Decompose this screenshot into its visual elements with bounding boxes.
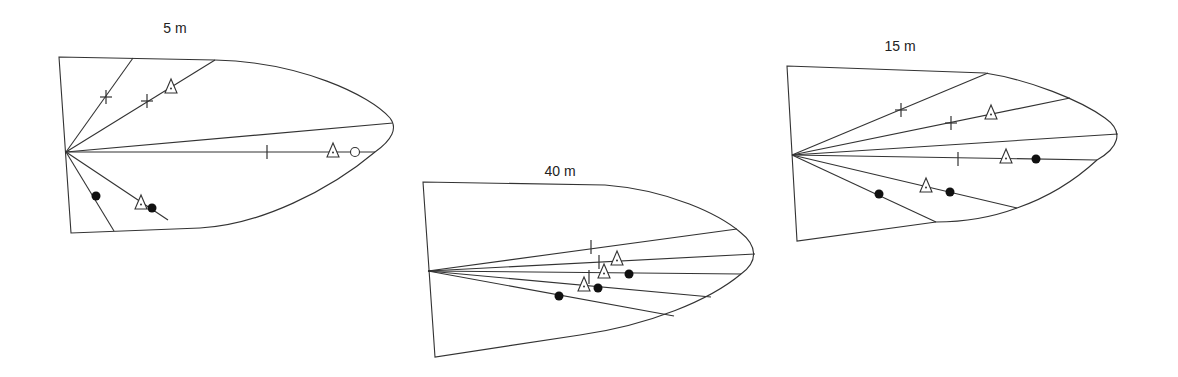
filled-dot-marker-icon xyxy=(1032,155,1041,164)
plus-marker-icon xyxy=(895,103,907,117)
panel-5m: 5 m xyxy=(59,20,394,233)
triangle-marker-icon xyxy=(598,264,610,278)
ray-line xyxy=(792,155,1097,160)
ray-line xyxy=(66,58,133,152)
ray-line xyxy=(792,73,988,155)
panel-15m: 15 m xyxy=(787,38,1118,241)
triangle-marker-icon xyxy=(135,195,147,209)
triangle-marker-icon xyxy=(578,277,590,291)
diagram-canvas: 5 m 40 m 15 m xyxy=(0,0,1178,377)
plus-marker-icon xyxy=(141,94,153,108)
panel-title: 5 m xyxy=(163,20,186,36)
ray-line xyxy=(428,271,674,316)
triangle-marker-icon xyxy=(985,105,997,119)
ray-group xyxy=(792,73,1118,222)
ray-line xyxy=(428,229,737,271)
filled-dot-marker-icon xyxy=(875,190,884,199)
filled-dot-marker-icon xyxy=(555,292,564,301)
panel-outline xyxy=(423,182,754,357)
filled-dot-marker-icon xyxy=(594,284,603,293)
panel-outline xyxy=(787,66,1117,241)
ray-line xyxy=(428,254,755,271)
marker-group xyxy=(875,103,1041,199)
filled-dot-marker-icon xyxy=(625,270,634,279)
triangle-marker-icon xyxy=(327,143,339,157)
ray-line xyxy=(428,271,711,297)
filled-dot-marker-icon xyxy=(148,204,157,213)
ray-line xyxy=(66,60,215,152)
ray-group xyxy=(66,58,393,231)
open-circle-marker-icon xyxy=(351,148,360,157)
triangle-marker-icon xyxy=(920,178,932,192)
marker-group xyxy=(555,240,634,301)
plus-marker-icon xyxy=(945,116,957,130)
filled-dot-marker-icon xyxy=(946,188,955,197)
ray-line xyxy=(792,155,1017,208)
triangle-marker-icon xyxy=(165,79,177,93)
panel-40m: 40 m xyxy=(423,163,755,357)
ray-line xyxy=(792,155,936,222)
triangle-marker-icon xyxy=(1000,149,1012,163)
ray-line xyxy=(428,271,741,274)
panel-title: 40 m xyxy=(544,163,575,179)
panel-outline xyxy=(59,57,394,233)
triangle-marker-icon xyxy=(611,251,623,265)
filled-dot-marker-icon xyxy=(92,192,101,201)
ray-line xyxy=(66,152,114,231)
ray-line xyxy=(66,123,393,152)
panel-title: 15 m xyxy=(884,38,915,54)
